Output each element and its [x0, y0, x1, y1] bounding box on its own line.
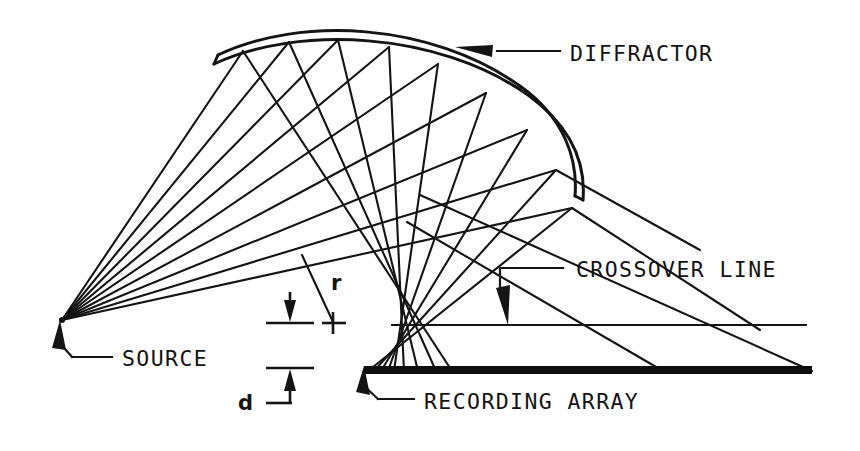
source-leader [52, 320, 112, 357]
figure-canvas: DIFFRACTOR CROSSOVER LINE SOURCE RECORDI… [0, 0, 860, 451]
crossover-leader [496, 268, 563, 325]
diffractor-label: DIFFRACTOR [570, 41, 713, 66]
depth-symbol-label: d [238, 391, 253, 415]
depth-dimension [266, 292, 314, 403]
diffractor-arc [214, 31, 583, 200]
radius-symbol-label: r [331, 271, 342, 295]
source-label: SOURCE [122, 346, 208, 371]
crossover-line-label: CROSSOVER LINE [576, 257, 777, 282]
diffractor-leader [455, 45, 560, 57]
recording-array-label: RECORDING ARRAY [424, 389, 639, 414]
diffractor-ray-diagram: DIFFRACTOR CROSSOVER LINE SOURCE RECORDI… [0, 0, 860, 451]
recording-array-bar [364, 366, 812, 374]
source-point [59, 317, 65, 323]
